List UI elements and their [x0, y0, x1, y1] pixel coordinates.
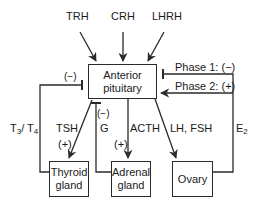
acth-sign: (+): [114, 139, 128, 150]
lh-fsh-label: LH, FSH: [170, 123, 212, 134]
adrenal-gland-line2: gland: [118, 179, 145, 192]
trh-arrow: [80, 32, 96, 61]
phase1-label: Phase 1: (−): [175, 62, 235, 73]
thyroid-gland-line1: Thyroid: [51, 166, 88, 179]
tsh-label: TSH: [56, 123, 78, 134]
crh-label: CRH: [111, 11, 135, 22]
phase2-label: Phase 2: (+): [175, 81, 235, 92]
thyroid-gland-line2: gland: [56, 179, 83, 192]
e2-sub: 2: [243, 127, 247, 136]
anterior-pituitary-line2: pituitary: [103, 82, 142, 95]
lhrh-label: LHRH: [152, 11, 182, 22]
anterior-pituitary-line1: Anterior: [103, 69, 142, 82]
adrenal-gland-box: Adrenal gland: [111, 161, 151, 197]
acth-label: ACTH: [130, 123, 160, 134]
thyroid-gland-box: Thyroid gland: [49, 161, 89, 197]
ovary-label: Ovary: [178, 173, 207, 186]
anterior-pituitary-box: Anterior pituitary: [88, 64, 157, 99]
adrenal-gland-line1: Adrenal: [112, 166, 150, 179]
tsh-sign: (+): [58, 139, 72, 150]
t3-t-char: T: [10, 122, 17, 134]
e2-label: E2: [236, 123, 248, 136]
t4-t-char: / T: [21, 122, 34, 134]
thyroid-feedback-sign: (−): [64, 72, 77, 82]
t3-t4-label: T3/ T4: [10, 123, 38, 136]
t4-sub: 4: [34, 127, 38, 136]
trh-label: TRH: [66, 11, 89, 22]
ovary-box: Ovary: [172, 161, 213, 197]
lhrh-arrow: [148, 32, 164, 61]
g-label: G: [100, 123, 109, 134]
g-sign: (−): [97, 109, 110, 119]
